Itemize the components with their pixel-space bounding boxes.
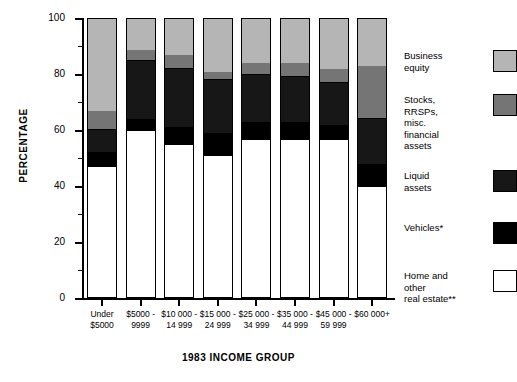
x-tick [371, 299, 373, 306]
bar-segment-home [242, 139, 270, 297]
y-tick-major: 60 [75, 130, 82, 132]
bar-stack [164, 18, 194, 298]
x-category-label-line2: 59 999 [306, 320, 362, 331]
bar-segment-vehicles [165, 127, 193, 144]
bar-series-group [83, 18, 394, 298]
bar-segment-home [204, 155, 232, 297]
bar-segment-home [281, 139, 309, 297]
bar-segment-liquid [358, 119, 386, 163]
legend-label-stocks-rrsps: Stocks, RRSPs, misc. financial assets [404, 94, 466, 152]
bar-segment-liquid [320, 83, 348, 125]
bar-segment-liquid [204, 80, 232, 133]
legend-item-stocks-rrsps[interactable]: Stocks, RRSPs, misc. financial assets [404, 94, 517, 152]
bar-segment-home [358, 186, 386, 297]
legend-item-home-real-estate[interactable]: Home and other real estate** [404, 270, 517, 305]
legend-label-liquid-assets: Liquid assets [404, 170, 466, 193]
x-axis-line [77, 298, 395, 300]
bar-segment-stocks [320, 69, 348, 83]
y-tick-label: 0 [35, 293, 65, 303]
bar-stack [241, 18, 271, 298]
legend-label-vehicles: Vehicles* [404, 222, 466, 234]
bar-segment-stocks [358, 66, 386, 119]
bar-segment-stocks [127, 50, 155, 61]
y-tick-label: 40 [35, 181, 65, 191]
bar-segment-liquid [242, 75, 270, 122]
bar-segment-vehicles [281, 122, 309, 139]
bar-segment-vehicles [358, 164, 386, 186]
bar-stack [87, 18, 117, 298]
x-tick [101, 299, 103, 306]
bar-segment-liquid [165, 69, 193, 127]
bar-segment-business [204, 19, 232, 72]
x-tick [294, 299, 296, 306]
bar-segment-home [165, 144, 193, 297]
x-tick [333, 299, 335, 306]
legend-swatch-home-real-estate [493, 270, 517, 292]
x-tick [178, 299, 180, 306]
chart-container: PERCENTAGE 020406080100 Under$5000$5000 … [0, 0, 517, 382]
y-tick-minor [78, 46, 82, 47]
bar-segment-home [320, 139, 348, 297]
bar-segment-vehicles [127, 119, 155, 130]
bar-segment-stocks [242, 63, 270, 74]
legend-swatch-vehicles [493, 222, 517, 244]
y-tick-label: 60 [35, 125, 65, 135]
y-tick-major: 20 [75, 242, 82, 244]
chart-legend: Business equityStocks, RRSPs, misc. fina… [404, 22, 517, 292]
bar-segment-business [320, 19, 348, 69]
bar-segment-business [358, 19, 386, 66]
bar-segment-stocks [281, 63, 309, 77]
y-axis-title: PERCENTAGE [18, 86, 29, 206]
plot-area: 020406080100 [83, 18, 394, 298]
bar-segment-business [281, 19, 309, 63]
bar-segment-business [88, 19, 116, 111]
legend-label-home-real-estate: Home and other real estate** [404, 270, 466, 305]
x-axis-category-labels: Under$5000$5000 -9999$10 000 -14 999$15 … [83, 309, 394, 343]
legend-item-vehicles[interactable]: Vehicles* [404, 222, 517, 244]
bar-segment-home [88, 166, 116, 297]
y-tick-major: 80 [75, 74, 82, 76]
bar-stack [126, 18, 156, 298]
y-tick-major: 40 [75, 186, 82, 188]
x-tick [217, 299, 219, 306]
legend-swatch-stocks-rrsps [493, 94, 517, 116]
bar-stack [280, 18, 310, 298]
x-axis-title: 1983 INCOME GROUP [83, 352, 394, 363]
bar-segment-business [127, 19, 155, 50]
legend-label-business-equity: Business equity [404, 50, 466, 73]
y-tick-minor [78, 102, 82, 103]
legend-item-business-equity[interactable]: Business equity [404, 50, 517, 73]
bar-segment-liquid [127, 61, 155, 119]
x-category-label-line1: Under [90, 309, 113, 319]
legend-swatch-business-equity [493, 50, 517, 72]
bar-segment-home [127, 130, 155, 297]
bar-segment-vehicles [320, 125, 348, 139]
bar-segment-vehicles [88, 152, 116, 166]
y-tick-major: 0 [75, 298, 82, 300]
y-tick-label: 80 [35, 69, 65, 79]
bar-segment-liquid [281, 77, 309, 121]
bar-segment-stocks [88, 111, 116, 130]
bar-stack [203, 18, 233, 298]
bar-segment-business [242, 19, 270, 63]
bar-segment-stocks [165, 55, 193, 69]
bar-segment-stocks [204, 72, 232, 80]
legend-swatch-liquid-assets [493, 170, 517, 192]
bar-segment-vehicles [204, 133, 232, 155]
x-category-label-line1: $60 000+ [354, 309, 390, 319]
y-tick-minor [78, 158, 82, 159]
y-tick-minor [78, 270, 82, 271]
bar-segment-liquid [88, 130, 116, 152]
x-tick [140, 299, 142, 306]
bar-segment-vehicles [242, 122, 270, 139]
x-tick [255, 299, 257, 306]
y-tick-label: 100 [35, 13, 65, 23]
legend-item-liquid-assets[interactable]: Liquid assets [404, 170, 517, 193]
y-tick-major: 100 [75, 18, 82, 20]
x-category-label: $60 000+ [344, 309, 400, 320]
bar-stack [357, 18, 387, 298]
bar-segment-business [165, 19, 193, 55]
bar-stack [319, 18, 349, 298]
y-tick-minor [78, 214, 82, 215]
y-tick-label: 20 [35, 237, 65, 247]
